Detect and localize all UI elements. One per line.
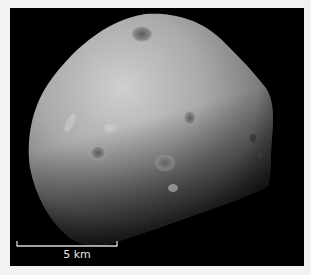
moon-illustration — [10, 8, 304, 266]
moon-photograph: 5 km — [10, 8, 304, 266]
scale-bar-label: 5 km — [47, 249, 107, 261]
